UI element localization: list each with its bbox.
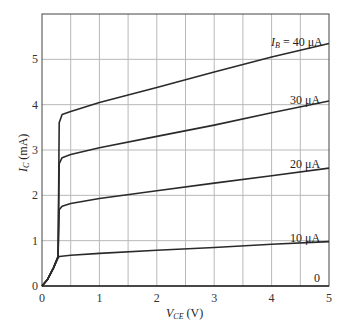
x-tick-label: 4 (269, 291, 275, 305)
x-axis-label: VCE (V) (166, 306, 203, 321)
y-tick-label: 3 (32, 143, 38, 157)
y-tick-label: 1 (32, 234, 38, 248)
y-tick-label: 5 (32, 52, 38, 66)
curve-label-30uA: 30 μA (290, 93, 320, 107)
ic-vce-chart: 012345012345 IB = 40 μA 30 μA 20 μA 10 μ… (0, 0, 345, 326)
y-tick-label: 2 (32, 188, 38, 202)
y-tick-label: 0 (32, 279, 38, 293)
curve-label-0: 0 (314, 271, 320, 285)
x-tick-label: 5 (326, 291, 332, 305)
y-axis-label: IC (mA) (16, 134, 31, 173)
curve-label-20uA: 20 μA (290, 157, 320, 171)
curve-label-10uA: 10 μA (290, 231, 320, 245)
curve-label-40uA: IB = 40 μA (270, 35, 323, 50)
x-tick-label: 3 (211, 291, 217, 305)
x-tick-label: 2 (154, 291, 160, 305)
y-tick-label: 4 (32, 98, 38, 112)
grid-lines (42, 14, 329, 286)
x-tick-label: 1 (96, 291, 102, 305)
axis-ticks: 012345012345 (32, 52, 332, 305)
x-tick-label: 0 (39, 291, 45, 305)
